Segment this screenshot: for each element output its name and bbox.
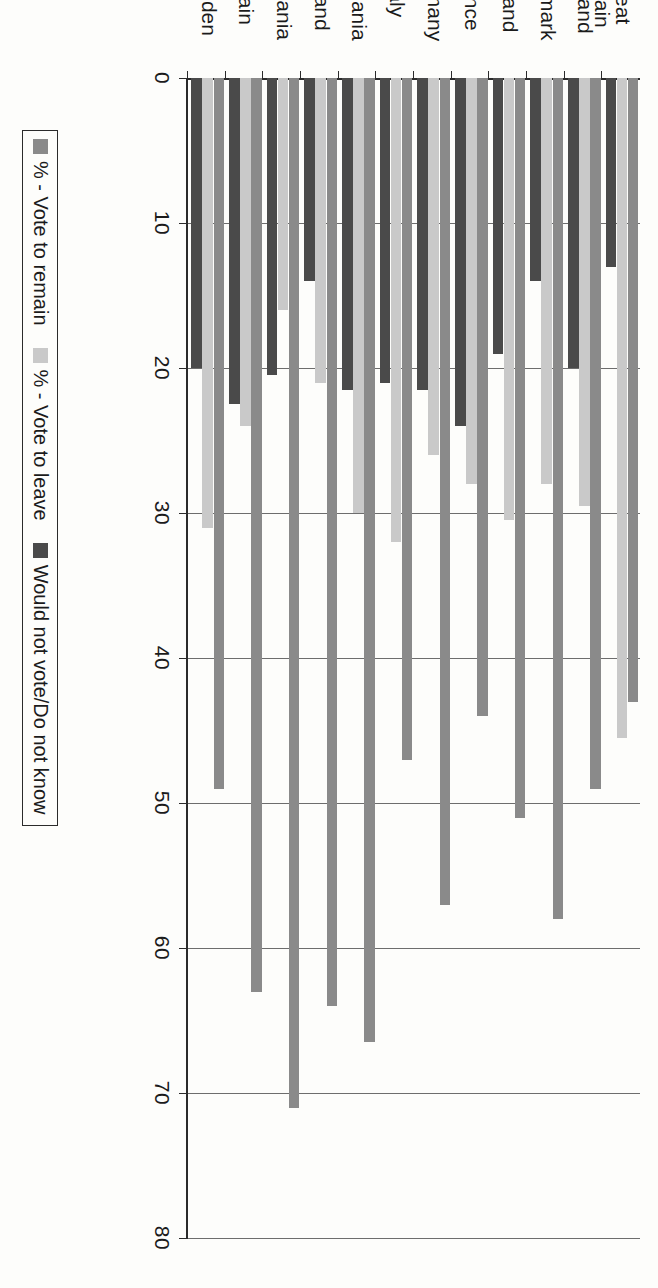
bar-remain <box>477 78 488 716</box>
value-tick-label-10: 10 <box>150 203 174 243</box>
bar-none <box>229 78 240 404</box>
bar-leave <box>428 78 439 455</box>
value-tick-40 <box>179 658 188 659</box>
value-tick-50 <box>179 803 188 804</box>
value-tick-label-0: 0 <box>150 58 174 98</box>
value-tick-label-80: 80 <box>150 1218 174 1258</box>
gridline-70 <box>188 1093 640 1094</box>
bar-none <box>606 78 617 267</box>
bar-remain <box>402 78 413 760</box>
value-tick-20 <box>179 368 188 369</box>
category-label: Great Britain <box>591 0 634 58</box>
bar-remain <box>214 78 225 789</box>
category-tick <box>451 71 452 78</box>
category-label: Italy <box>387 0 408 58</box>
legend-item-no-vote: Would not vote/Do not know <box>29 543 52 815</box>
bar-none <box>568 78 579 368</box>
value-tick-80 <box>179 1238 188 1239</box>
legend-swatch-no-vote-icon <box>33 543 48 558</box>
bar-leave <box>504 78 515 520</box>
bar-leave <box>353 78 364 513</box>
category-tick <box>225 71 226 78</box>
category-tick <box>338 71 339 78</box>
gridline-80 <box>188 1238 640 1239</box>
category-label: Romania <box>274 0 295 58</box>
category-label: Holland <box>575 0 596 58</box>
category-tick <box>187 71 188 78</box>
bar-none <box>304 78 315 281</box>
bar-remain <box>440 78 451 905</box>
bar-none <box>191 78 202 368</box>
value-tick-label-20: 20 <box>150 348 174 388</box>
bar-remain <box>327 78 338 1006</box>
value-tick-label-50: 50 <box>150 783 174 823</box>
plot: 01020304050607080 Great BritainHollandDe… <box>140 78 640 1238</box>
category-tick <box>413 71 414 78</box>
bar-leave <box>617 78 628 738</box>
category-label: Germany <box>424 0 445 58</box>
category-tick <box>300 71 301 78</box>
bar-remain <box>289 78 300 1108</box>
category-label: Sweden <box>198 0 219 58</box>
legend-label-remain: % - Vote to remain <box>29 161 52 326</box>
bar-leave <box>240 78 251 426</box>
value-tick-label-70: 70 <box>150 1073 174 1113</box>
legend-item-leave: % - Vote to leave <box>29 348 52 521</box>
bar-none <box>380 78 391 383</box>
value-tick-label-30: 30 <box>150 493 174 533</box>
bar-none <box>342 78 353 390</box>
bar-none <box>530 78 541 281</box>
legend-label-leave: % - Vote to leave <box>29 370 52 521</box>
category-label: Denmark <box>537 0 558 58</box>
bar-leave <box>391 78 402 542</box>
bar-remain <box>590 78 601 789</box>
value-tick-30 <box>179 513 188 514</box>
bar-leave <box>315 78 326 383</box>
category-tick <box>262 71 263 78</box>
category-tick <box>488 71 489 78</box>
category-tick <box>375 71 376 78</box>
bar-leave <box>466 78 477 484</box>
value-tick-10 <box>179 223 188 224</box>
bar-leave <box>278 78 289 310</box>
bar-none <box>417 78 428 390</box>
category-label: France <box>462 0 483 58</box>
value-tick-label-40: 40 <box>150 638 174 678</box>
legend-swatch-leave-icon <box>33 348 48 363</box>
bar-none <box>493 78 504 354</box>
category-label: Lithuania <box>349 0 370 58</box>
bar-remain <box>553 78 564 919</box>
bar-none <box>455 78 466 426</box>
bar-remain <box>251 78 262 992</box>
category-tick <box>564 71 565 78</box>
bar-leave <box>202 78 213 528</box>
bar-remain <box>364 78 375 1042</box>
category-tick <box>601 71 602 78</box>
value-tick-70 <box>179 1093 188 1094</box>
bar-leave <box>541 78 552 484</box>
value-tick-label-60: 60 <box>150 928 174 968</box>
legend-swatch-remain-icon <box>33 139 48 154</box>
bar-none <box>267 78 278 375</box>
legend-label-no-vote: Would not vote/Do not know <box>29 565 52 815</box>
bar-remain <box>628 78 639 702</box>
legend: % - Vote to remain % - Vote to leave Wou… <box>22 130 58 826</box>
value-tick-60 <box>179 948 188 949</box>
value-tick-0 <box>179 78 188 79</box>
chart-figure: 01020304050607080 Great BritainHollandDe… <box>0 0 658 1288</box>
category-label: Poland <box>311 0 332 58</box>
category-label: Spain <box>236 0 257 58</box>
legend-item-remain: % - Vote to remain <box>29 139 52 326</box>
bar-leave <box>579 78 590 506</box>
category-label: Finland <box>500 0 521 58</box>
bar-remain <box>515 78 526 818</box>
category-tick <box>526 71 527 78</box>
